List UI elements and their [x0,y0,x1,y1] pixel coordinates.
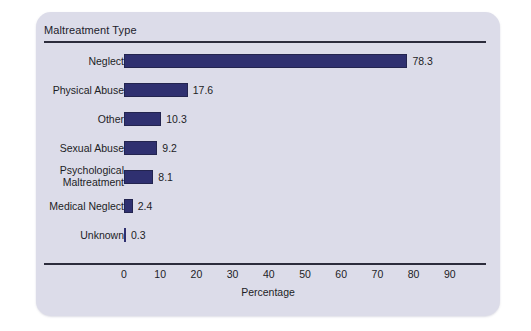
bar[interactable] [124,199,133,213]
x-tick-label: 50 [299,268,311,280]
legend-title-rule [44,41,486,43]
chart-card: Maltreatment Type Neglect78.3Physical Ab… [36,12,500,316]
x-axis-ticks: 0102030405060708090 [36,268,500,282]
bar-row: Sexual Abuse9.2 [36,135,500,164]
x-axis-title: Percentage [36,286,500,298]
bar-row: Neglect78.3 [36,48,500,77]
bar-row: Psychological Maltreatment8.1 [36,164,500,193]
category-label: Sexual Abuse [0,142,124,154]
category-label: Other [0,113,124,125]
bar-value-label: 17.6 [193,84,213,96]
category-label: Medical Neglect [0,200,124,212]
x-tick-label: 30 [227,268,239,280]
category-label: Psychological Maltreatment [0,165,124,188]
x-tick-label: 90 [444,268,456,280]
category-label: Physical Abuse [0,84,124,96]
x-tick-label: 20 [191,268,203,280]
bar[interactable] [124,141,157,155]
bar-row: Unknown0.3 [36,222,500,251]
x-tick-label: 70 [372,268,384,280]
category-label: Unknown [0,229,124,241]
bar-row: Physical Abuse17.6 [36,77,500,106]
bar-value-label: 8.1 [158,171,173,183]
bar-value-label: 2.4 [138,200,153,212]
x-tick-label: 10 [154,268,166,280]
bar-value-label: 78.3 [412,55,432,67]
bar[interactable] [124,83,188,97]
x-tick-label: 0 [121,268,127,280]
bar-row: Medical Neglect2.4 [36,193,500,222]
x-tick-label: 60 [335,268,347,280]
x-tick-label: 40 [263,268,275,280]
bar[interactable] [124,170,153,184]
bar-value-label: 0.3 [131,229,146,241]
bar-value-label: 10.3 [166,113,186,125]
bar[interactable] [124,228,126,242]
bar-row: Other10.3 [36,106,500,135]
x-tick-label: 80 [408,268,420,280]
x-axis-line [44,263,486,265]
legend-title: Maltreatment Type [44,24,137,36]
bar-value-label: 9.2 [162,142,177,154]
plot-area: Neglect78.3Physical Abuse17.6Other10.3Se… [36,48,500,266]
bar[interactable] [124,54,407,68]
bar[interactable] [124,112,161,126]
category-label: Neglect [0,55,124,67]
